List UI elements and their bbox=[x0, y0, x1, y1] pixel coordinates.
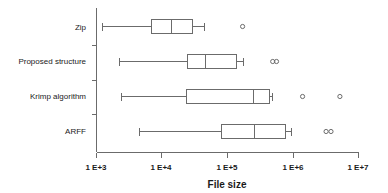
category-label-krimp-algorithm: Krimp algorithm bbox=[30, 92, 86, 101]
outlier-point bbox=[324, 129, 328, 133]
category-label-arff: ARFF bbox=[65, 127, 86, 136]
x-axis-tick-label-2: 1 E+5 bbox=[216, 163, 238, 172]
category-labels: Zip Proposed structure Krimp algorithm A… bbox=[18, 23, 86, 136]
boxplot-figure: Zip Proposed structure Krimp algorithm A… bbox=[0, 0, 388, 193]
boxplot-group bbox=[121, 90, 342, 104]
box-iqr bbox=[222, 125, 286, 139]
x-axis-tick-label-0: 1 E+3 bbox=[85, 163, 107, 172]
x-axis-title: File size bbox=[208, 179, 247, 190]
category-label-proposed-structure: Proposed structure bbox=[18, 57, 86, 66]
x-axis-tick-label-3: 1 E+6 bbox=[282, 163, 304, 172]
boxplot-group bbox=[119, 55, 279, 69]
box-iqr bbox=[188, 55, 237, 69]
outlier-point bbox=[300, 94, 304, 98]
boxplot-svg: Zip Proposed structure Krimp algorithm A… bbox=[0, 0, 388, 193]
y-axis bbox=[92, 8, 97, 152]
boxplot-series bbox=[102, 20, 342, 139]
boxplot-group bbox=[139, 125, 333, 139]
box-iqr bbox=[187, 90, 270, 104]
outlier-point bbox=[338, 94, 342, 98]
x-axis-tick-label-1: 1 E+4 bbox=[150, 163, 172, 172]
boxplot-group bbox=[102, 20, 245, 34]
outlier-point bbox=[240, 24, 244, 28]
x-axis-tick-label-4: 1 E+7 bbox=[347, 163, 369, 172]
outlier-point bbox=[329, 129, 333, 133]
category-label-zip: Zip bbox=[75, 23, 87, 32]
x-axis: 1 E+3 1 E+4 1 E+5 1 E+6 1 E+7 bbox=[85, 153, 369, 173]
